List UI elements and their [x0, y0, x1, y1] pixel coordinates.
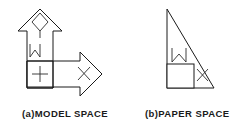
diagram-svg: (a)MODEL SPACE (b)PAPER SPACE [0, 0, 241, 128]
figure-paper-space: (b)PAPER SPACE [145, 9, 229, 119]
figure-model-space: (a)MODEL SPACE [18, 9, 108, 119]
diagram-canvas: (a)MODEL SPACE (b)PAPER SPACE [0, 0, 241, 128]
caption-model-space: (a)MODEL SPACE [22, 108, 108, 119]
caption-paper-space: (b)PAPER SPACE [145, 108, 229, 119]
square-glyph [167, 64, 194, 88]
